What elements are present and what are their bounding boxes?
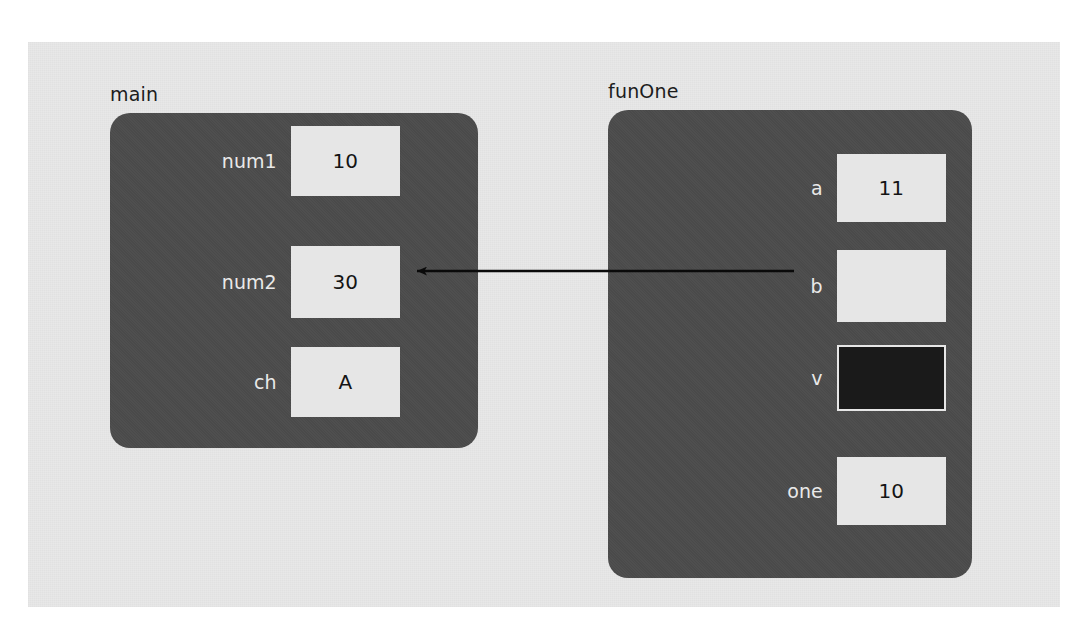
- diagram-stage: main num1 10 num2 30 ch A funOne a 11 b: [0, 0, 1089, 638]
- variable-value-v[interactable]: [837, 345, 946, 411]
- frame-label-main: main: [110, 85, 158, 104]
- variable-value-one[interactable]: 10: [837, 457, 946, 525]
- variable-row-num1: num1 10: [110, 126, 400, 196]
- variable-value-a[interactable]: 11: [837, 154, 946, 222]
- variable-label-one: one: [661, 482, 837, 501]
- variable-row-ch: ch A: [110, 347, 400, 417]
- variable-label-a: a: [661, 179, 837, 198]
- variable-row-num2: num2 30: [110, 246, 400, 318]
- variable-value-b[interactable]: [837, 250, 946, 322]
- variable-row-b: b: [661, 250, 946, 322]
- variable-value-num2[interactable]: 30: [291, 246, 400, 318]
- variable-value-num1[interactable]: 10: [291, 126, 400, 196]
- variable-label-num2: num2: [110, 273, 291, 292]
- variable-row-one: one 10: [661, 457, 946, 525]
- variable-row-v: v: [661, 345, 946, 411]
- variable-label-ch: ch: [110, 373, 291, 392]
- variable-value-ch[interactable]: A: [291, 347, 400, 417]
- frame-label-funone: funOne: [608, 82, 679, 101]
- stack-frame-funone: funOne a 11 b v one 10: [608, 82, 972, 578]
- variable-label-num1: num1: [110, 152, 291, 171]
- variable-label-v: v: [661, 369, 837, 388]
- variable-row-a: a 11: [661, 154, 946, 222]
- stack-frame-main: main num1 10 num2 30 ch A: [110, 85, 478, 448]
- variable-label-b: b: [661, 277, 837, 296]
